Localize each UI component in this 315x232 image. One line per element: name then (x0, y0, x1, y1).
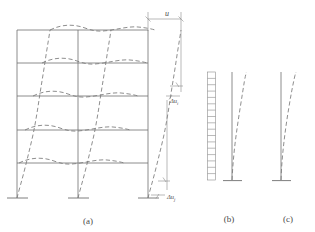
deformed-column-left (17, 30, 50, 198)
panel-b-wall-frame: (b) (208, 72, 247, 224)
frame-beams-undeformed (17, 30, 148, 163)
caption-a: (a) (83, 216, 93, 226)
panel-a-frame: u Δui (7, 9, 184, 227)
panel-b-deformed-shape (232, 72, 246, 180)
ladder-rungs (208, 78, 216, 173)
ladder-outline (208, 72, 216, 180)
figure-container: u Δui (0, 0, 315, 232)
label-total-drift-u: u (165, 9, 169, 18)
label-story-drift-j: Δuj (166, 193, 176, 202)
dimension-story-drift-i: Δui (166, 31, 183, 106)
deformed-column-right (148, 30, 181, 198)
dim-arrow-j-top (163, 178, 166, 183)
structural-deformation-figure: u Δui (0, 0, 315, 232)
drift-j-subscript: j (173, 197, 176, 202)
dimension-total-drift: u (146, 9, 184, 32)
label-story-drift-i: Δui (169, 97, 179, 106)
dimension-story-drift-j: Δuj (151, 100, 176, 202)
drift-i-subscript: i (177, 101, 179, 106)
caption-b: (b) (224, 214, 235, 224)
caption-c: (c) (283, 214, 293, 224)
deformed-column-middle (78, 30, 111, 198)
panel-c-cantilever-wall: (c) (272, 72, 296, 224)
frame-columns-deformed (17, 30, 181, 198)
dim-arrow-i-top (176, 83, 179, 88)
frame-columns-undeformed (17, 30, 148, 198)
ladder-wall-element (208, 72, 216, 180)
panel-c-deformed-shape (281, 72, 296, 180)
